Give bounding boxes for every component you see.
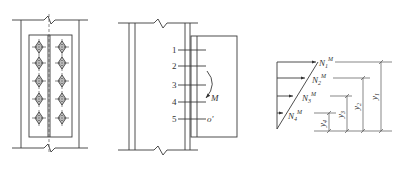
splice-plate [29, 35, 72, 137]
bolt-row-label: 5 [172, 114, 177, 124]
bolt-row-label: 2 [172, 61, 177, 71]
bolt-row-label: 4 [172, 97, 177, 107]
force-label-n3: N3M [301, 91, 317, 104]
beam-end-plate [191, 36, 237, 137]
dimension-y4: y4 [317, 120, 328, 128]
rotation-center-label: o' [207, 114, 215, 124]
force-label-n4: N4M [287, 109, 303, 122]
force-label-n1: N1M [318, 56, 334, 69]
dimension-y1: y1 [369, 93, 380, 101]
bolted-connection-diagram: 1 2 3 4 5 M o' N1M N2M N3M N4M [0, 0, 401, 171]
bolt-row-label: 1 [172, 45, 177, 55]
dimension-y3: y3 [335, 111, 346, 119]
panel-a-front-view [12, 14, 88, 154]
bolt-row-label: 3 [172, 80, 177, 90]
moment-label: M [210, 93, 219, 103]
bolt-group [32, 39, 69, 126]
dimension-y2: y2 [351, 103, 362, 111]
panel-b-side-view: 1 2 3 4 5 M o' [118, 19, 237, 155]
force-label-n2: N2M [311, 73, 327, 86]
panel-c-force-distribution: N1M N2M N3M N4M y1 y2 y3 y4 [277, 56, 392, 133]
